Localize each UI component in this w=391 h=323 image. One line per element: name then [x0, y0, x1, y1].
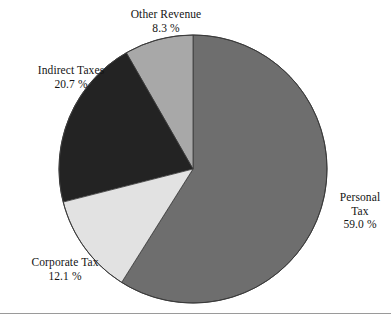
pie-label-other-revenue: Other Revenue 8.3 %: [104, 8, 228, 35]
pie-label-personal-tax-name: Personal: [330, 191, 390, 205]
pie-label-indirect-taxes: Indirect Taxes 20.7 %: [13, 64, 129, 91]
pie-label-personal-tax-name2: Tax: [330, 205, 390, 219]
bottom-divider: [0, 313, 391, 314]
pie-label-corporate-tax-value: 12.1 %: [4, 270, 126, 284]
pie-label-corporate-tax-name: Corporate Tax: [4, 256, 126, 270]
pie-label-other-revenue-name: Other Revenue: [104, 8, 228, 22]
pie-label-personal-tax-value: 59.0 %: [330, 218, 390, 232]
pie-label-indirect-taxes-value: 20.7 %: [13, 78, 129, 92]
pie-label-personal-tax: Personal Tax 59.0 %: [330, 191, 390, 232]
pie-chart-figure: Other Revenue 8.3 % Indirect Taxes 20.7 …: [0, 0, 391, 323]
pie-label-other-revenue-value: 8.3 %: [104, 22, 228, 36]
pie-label-indirect-taxes-name: Indirect Taxes: [13, 64, 129, 78]
pie-label-corporate-tax: Corporate Tax 12.1 %: [4, 256, 126, 283]
